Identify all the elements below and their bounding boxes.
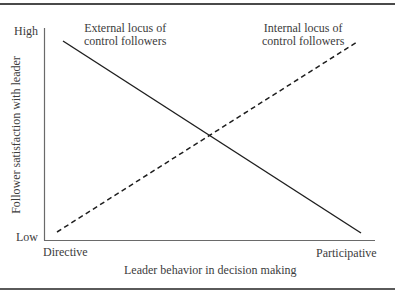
y-tick-high: High — [14, 25, 38, 38]
x-tick-participative: Participative — [316, 247, 377, 260]
y-axis-label: Follower satisfaction with leader — [10, 56, 23, 214]
x-axis-label: Leader behavior in decision making — [124, 264, 297, 277]
external-locus-label-line2: control followers — [84, 35, 166, 48]
x-tick-directive: Directive — [43, 246, 88, 259]
internal-locus-label-line2: control followers — [262, 35, 344, 48]
internal-locus-label: Internal locus of control followers — [262, 22, 344, 48]
y-tick-low: Low — [16, 231, 38, 244]
internal-locus-line — [57, 42, 357, 232]
external-locus-line — [63, 41, 361, 233]
external-locus-label: External locus of control followers — [84, 22, 166, 48]
